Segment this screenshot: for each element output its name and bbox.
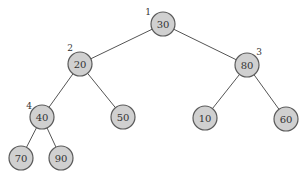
tree-edges [26,29,279,147]
node-index-label: 3 [256,47,262,57]
tree-edge-80-10 [212,74,239,108]
tree-node-80: 803 [235,47,262,77]
node-index-label: 1 [145,7,151,17]
node-value: 30 [157,19,170,30]
tree-node-70: 70 [9,146,33,170]
tree-edge-80-60 [254,75,279,110]
node-value: 80 [241,60,254,71]
node-value: 50 [117,112,130,123]
tree-node-40: 404 [26,101,54,129]
tree-edge-40-90 [47,128,56,147]
node-index-label: 4 [26,101,32,111]
tree-edge-20-40 [49,74,73,107]
node-value: 10 [199,113,212,124]
tree-edge-30-80 [174,29,236,59]
tree-svg: 3012028034045010607090 [0,0,305,179]
node-value: 90 [55,153,68,164]
node-value: 60 [280,114,293,125]
tree-edge-30-20 [91,29,152,59]
node-value: 40 [36,112,49,123]
tree-edge-20-50 [88,73,116,107]
binary-tree-diagram: 3012028034045010607090 [0,0,305,179]
tree-node-30: 301 [145,7,175,36]
node-value: 20 [74,59,87,70]
node-value: 70 [15,153,28,164]
tree-node-90: 90 [49,146,73,170]
tree-node-50: 50 [111,105,135,129]
tree-edge-40-70 [26,128,36,148]
tree-node-10: 10 [193,106,217,130]
node-index-label: 2 [67,43,73,53]
tree-node-60: 60 [274,107,298,131]
tree-node-20: 202 [67,43,92,76]
tree-nodes: 3012028034045010607090 [9,7,298,170]
